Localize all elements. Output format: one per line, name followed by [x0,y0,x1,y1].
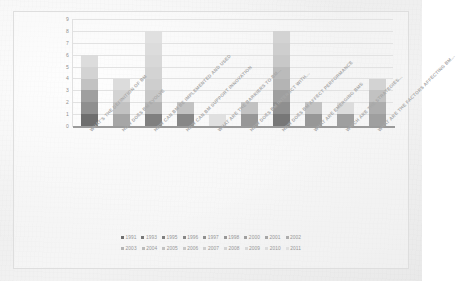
legend-label: 1997 [208,235,219,240]
bar-segment [273,102,290,114]
bar-segment [113,90,130,102]
legend-item[interactable]: 1991 [121,233,137,243]
bar-segment [81,55,98,67]
bar-segment [337,102,354,114]
legend-label: 2008 [228,246,239,251]
legend-item[interactable]: 2005 [162,244,178,254]
bar-segment [273,114,290,126]
bar-segment [369,102,386,114]
legend-swatch [203,247,206,250]
y-tick-label: 3 [66,87,69,93]
legend-swatch [224,236,227,239]
legend-label: 2007 [208,246,219,251]
y-tick-label: 7 [66,40,69,46]
legend-item[interactable]: 2010 [265,244,281,254]
bar-segment [145,102,162,114]
gridline [73,19,393,20]
legend-item[interactable]: 2004 [142,244,158,254]
bar-column [81,55,98,126]
legend-row-1: 199119931995199619971998200020012002 [13,232,409,243]
bar-segment [241,102,258,114]
bar-segment [273,79,290,91]
legend-label: 2003 [126,246,137,251]
bar-segment [177,114,194,126]
bar-segment [241,114,258,126]
legend-swatch [162,236,165,239]
legend-swatch [203,236,206,239]
legend-item[interactable]: 2001 [265,233,281,243]
bar-column [305,102,322,126]
y-tick-label: 6 [66,52,69,58]
legend-label: 2005 [167,246,178,251]
legend-swatch [183,236,186,239]
legend-label: 2002 [290,235,301,240]
legend-item[interactable]: 1998 [224,233,240,243]
y-tick-label: 2 [66,99,69,105]
legend-item[interactable]: 1993 [141,233,157,243]
chart-legend: 199119931995199619971998200020012002 200… [13,232,409,254]
legend-item[interactable]: 1996 [183,233,199,243]
legend-item[interactable]: 1995 [162,233,178,243]
legend-item[interactable]: 2003 [121,244,137,254]
y-tick-label: 9 [66,16,69,22]
legend-label: 2009 [249,246,260,251]
gridline [73,31,393,32]
bar-segment [273,90,290,102]
legend-label: 1996 [187,235,198,240]
gridline [73,43,393,44]
legend-swatch [141,236,144,239]
bar-column [145,31,162,126]
legend-swatch [265,247,268,250]
legend-item[interactable]: 2006 [183,244,199,254]
bar-segment [81,102,98,114]
legend-label: 2010 [270,246,281,251]
bar-segment [273,31,290,43]
bar-segment [145,67,162,79]
bar-segment [145,31,162,43]
legend-item[interactable]: 2009 [245,244,261,254]
legend-label: 2006 [187,246,198,251]
bar-segment [81,79,98,91]
bar-column [241,102,258,126]
gridline [73,67,393,68]
legend-label: 2011 [290,246,301,251]
legend-item[interactable]: 2007 [203,244,219,254]
bar-segment [145,43,162,55]
bar-segment [273,67,290,79]
legend-item[interactable]: 1997 [203,233,219,243]
legend-swatch [245,247,248,250]
legend-swatch [121,247,124,250]
bar-segment [113,114,130,126]
bar-segment [145,55,162,67]
bar-column [113,78,130,126]
y-tick-label: 1 [66,111,69,117]
legend-swatch [286,236,289,239]
legend-item[interactable]: 2000 [244,233,260,243]
y-tick-label: 0 [66,123,69,129]
bar-segment [81,90,98,102]
bar-column [209,114,226,126]
bar-segment [177,102,194,114]
y-tick-label: 4 [66,75,69,81]
legend-label: 2000 [249,235,260,240]
legend-swatch [142,247,145,250]
legend-swatch [286,247,289,250]
bar-segment [81,67,98,79]
bar-segment [145,114,162,126]
bar-column [337,102,354,126]
legend-swatch [244,236,247,239]
plot-area: 0123456789 [73,19,393,126]
legend-swatch [183,247,186,250]
legend-item[interactable]: 2011 [286,244,301,254]
legend-label: 2001 [269,235,280,240]
legend-label: 1993 [146,235,157,240]
bar-segment [81,114,98,126]
legend-label: 2004 [146,246,157,251]
bar-segment [369,90,386,102]
legend-item[interactable]: 2002 [286,233,302,243]
legend-swatch [121,236,124,239]
legend-item[interactable]: 2008 [224,244,240,254]
bar-column [273,31,290,126]
legend-label: 1995 [167,235,178,240]
